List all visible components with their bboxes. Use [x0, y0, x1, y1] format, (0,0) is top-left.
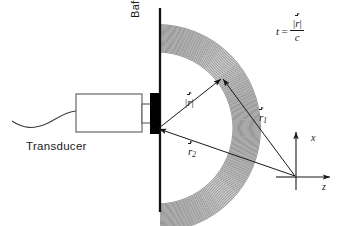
formula-fraction: |r| c: [290, 18, 304, 44]
axis-label-z: z: [322, 182, 326, 192]
axis-label-x: x: [311, 133, 315, 143]
formula-denominator: c: [295, 31, 300, 43]
r2-with-overarrow: r: [188, 146, 192, 157]
time-delay-formula: t = |r| c: [276, 18, 304, 44]
acoustic-transducer-diagram: Transducer Baffle x z |r| r1 r2 t = |r| …: [0, 0, 337, 226]
magnitude-bar-right: |: [191, 96, 193, 108]
vector-r2: [159, 129, 295, 176]
transducer-neck: [142, 104, 151, 123]
formula-numerator: |r|: [291, 18, 304, 30]
r1-with-overarrow: r: [259, 112, 263, 123]
formula-equals: =: [282, 25, 288, 37]
formula-r-with-overarrow: r: [295, 18, 299, 30]
subscript-1: 1: [263, 116, 267, 125]
vector-label-r2: r2: [188, 146, 196, 159]
baffle-label: Baffle: [130, 0, 141, 18]
transducer-cable: [12, 111, 76, 127]
piezo-element: [150, 93, 160, 134]
formula-lhs: t: [276, 25, 279, 37]
vector-label-r1: r1: [259, 112, 267, 125]
transducer-housing: [76, 94, 142, 132]
transducer-label: Transducer: [26, 141, 87, 153]
r-with-overarrow: r: [187, 97, 191, 108]
vector-label-r: |r|: [185, 97, 194, 108]
subscript-2: 2: [192, 150, 196, 159]
magnitude-bar-right: |: [299, 17, 301, 29]
